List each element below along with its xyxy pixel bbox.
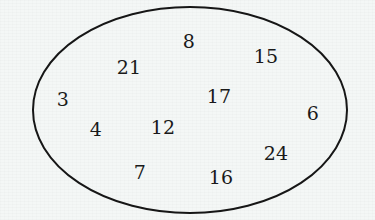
set-element-7: 7 bbox=[134, 163, 146, 182]
set-element-15: 15 bbox=[254, 47, 279, 66]
set-diagram: 81521317641224716 bbox=[0, 0, 375, 220]
set-element-8: 8 bbox=[183, 32, 195, 51]
set-element-12: 12 bbox=[151, 118, 176, 137]
set-element-24: 24 bbox=[264, 144, 289, 163]
set-element-6: 6 bbox=[307, 104, 319, 123]
set-element-4: 4 bbox=[90, 120, 102, 139]
set-element-3: 3 bbox=[57, 90, 69, 109]
set-element-21: 21 bbox=[117, 58, 142, 77]
set-element-17: 17 bbox=[207, 87, 232, 106]
set-element-16: 16 bbox=[209, 168, 234, 187]
